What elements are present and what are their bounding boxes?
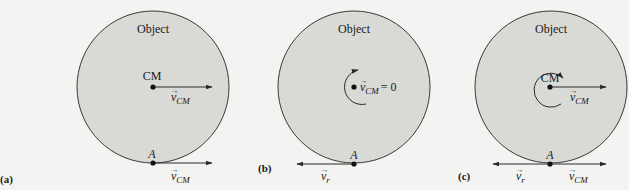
vector-arrow-icon: →: [571, 87, 578, 95]
cm-dot: [150, 84, 155, 89]
cm-label: CM: [541, 71, 560, 85]
cm-dot: [547, 84, 552, 89]
cm-label: CM: [143, 69, 162, 83]
point-a-label: A: [349, 148, 358, 162]
vector-arrow-icon: →: [570, 166, 577, 174]
panel-c: Object CM vCM → A vr → vCM → (c): [438, 11, 627, 185]
point-a-dot: [351, 161, 356, 166]
point-a-left-velocity-label: vr →: [516, 166, 525, 185]
point-a-dot: [150, 160, 155, 165]
point-a-label: A: [147, 147, 156, 161]
point-a-velocity-label: vr →: [321, 166, 330, 185]
figure-canvas: Object CM vCM → A vCM → (a) Object vCM= …: [0, 0, 629, 190]
point-a-label: A: [545, 148, 554, 162]
vector-arrow-icon: →: [517, 166, 524, 174]
panel-a: Object CM vCM → A vCM → (a): [0, 11, 229, 186]
rolling-motion-figure: Object CM vCM → A vCM → (a) Object vCM= …: [0, 0, 629, 190]
vector-arrow-icon: →: [172, 166, 179, 174]
cm-dot: [351, 84, 356, 89]
point-a-dot: [547, 161, 552, 166]
object-label: Object: [338, 22, 371, 36]
object-label: Object: [535, 22, 568, 36]
vector-arrow-icon: →: [322, 166, 329, 174]
point-a-velocity-label: vCM →: [171, 166, 190, 185]
panel-label: (c): [458, 170, 471, 183]
panel-b: Object vCM= 0 → A vr → (b): [258, 11, 430, 185]
panel-label: (a): [0, 173, 13, 186]
vector-arrow-icon: →: [361, 77, 368, 85]
vector-arrow-icon: →: [172, 87, 179, 95]
point-a-right-velocity-label: vCM →: [569, 166, 588, 185]
object-label: Object: [137, 22, 170, 36]
panel-label: (b): [258, 162, 272, 175]
